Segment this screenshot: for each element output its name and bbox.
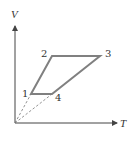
t-axis-label: T [120, 117, 127, 129]
dashed-line-origin-to-4 [15, 94, 52, 123]
point-label-3: 3 [105, 48, 111, 59]
vt-diagram: V T 1 2 3 4 [0, 0, 132, 141]
point-label-4: 4 [55, 92, 61, 103]
point-label-2: 2 [41, 48, 47, 59]
point-label-1: 1 [22, 88, 28, 99]
v-axis-label: V [11, 8, 19, 20]
cycle-path [31, 56, 100, 94]
